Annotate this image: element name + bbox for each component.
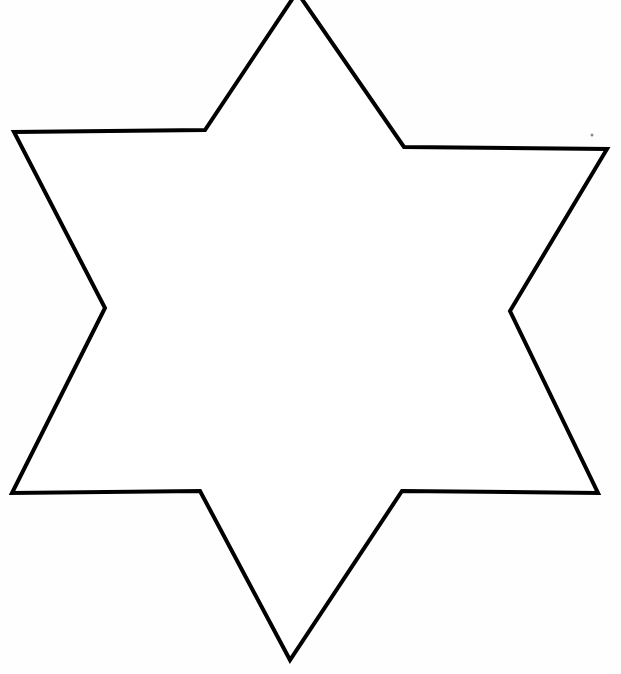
star-drawing [0, 0, 621, 674]
six-pointed-star-icon [12, 0, 607, 660]
drawing-canvas [0, 0, 621, 674]
speck-mark [591, 134, 594, 137]
